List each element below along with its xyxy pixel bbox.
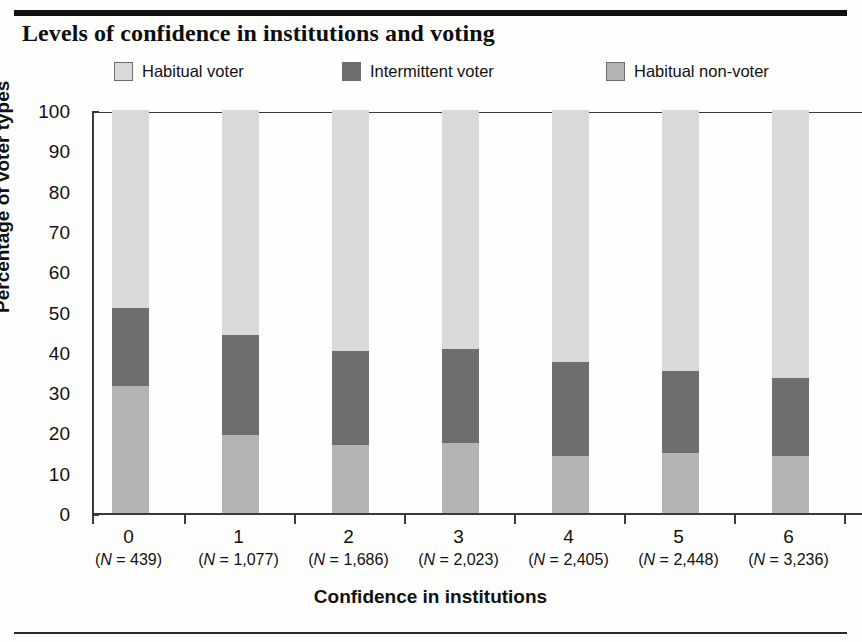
bar-column-3[interactable] <box>442 113 479 513</box>
x-axis-tick-marks <box>92 515 862 525</box>
intermittent-voter-swatch-icon <box>342 62 361 81</box>
x-tick-mark-5 <box>624 515 626 524</box>
bar-segment-habitual-voter-1[interactable] <box>222 110 259 335</box>
y-tick-label-70: 70 <box>16 222 70 244</box>
legend-item-habitual-non-voter[interactable]: Habitual non-voter <box>606 62 769 81</box>
x-label-group-4: 4(N = 2,405) <box>514 525 624 571</box>
x-axis-tick-labels: 0(N = 439)1(N = 1,077)2(N = 1,686)3(N = … <box>92 525 862 575</box>
y-tick-label-60: 60 <box>16 262 70 284</box>
bar-segment-habitual-voter-6[interactable] <box>772 110 809 378</box>
bar-segment-habitual-non-voter-0[interactable] <box>112 386 149 513</box>
bars-layer <box>94 113 862 513</box>
legend-label-intermittent-voter: Intermittent voter <box>370 62 494 81</box>
bar-segment-habitual-voter-4[interactable] <box>552 110 589 362</box>
bar-segment-habitual-voter-3[interactable] <box>442 110 479 349</box>
bar-column-5[interactable] <box>662 113 699 513</box>
bar-segment-intermittent-voter-1[interactable] <box>222 335 259 435</box>
y-tick-label-20: 20 <box>16 423 70 445</box>
bar-segment-intermittent-voter-4[interactable] <box>552 362 589 455</box>
bar-segment-intermittent-voter-3[interactable] <box>442 349 479 443</box>
bar-column-2[interactable] <box>332 113 369 513</box>
x-tick-mark-0 <box>92 515 94 524</box>
bar-column-1[interactable] <box>222 113 259 513</box>
legend-item-habitual-voter[interactable]: Habitual voter <box>114 62 244 81</box>
x-tick-mark-4 <box>514 515 516 524</box>
y-tick-label-50: 50 <box>16 303 70 325</box>
legend-item-intermittent-voter[interactable]: Intermittent voter <box>342 62 494 81</box>
y-tick-label-0: 0 <box>16 504 70 526</box>
x-sample-size-label-3: (N = 2,023) <box>404 549 514 571</box>
x-tick-mark-6 <box>734 515 736 524</box>
bar-column-4[interactable] <box>552 113 589 513</box>
bar-column-6[interactable] <box>772 113 809 513</box>
y-tick-label-40: 40 <box>16 343 70 365</box>
y-axis-tick-labels: 0102030405060708090100 <box>12 112 70 515</box>
bar-segment-habitual-voter-0[interactable] <box>112 110 149 308</box>
bar-segment-intermittent-voter-0[interactable] <box>112 308 149 386</box>
bar-segment-habitual-non-voter-6[interactable] <box>772 456 809 513</box>
x-sample-size-label-2: (N = 1,686) <box>294 549 404 571</box>
x-sample-size-label-6: (N = 3,236) <box>734 549 844 571</box>
x-sample-size-label-0: (N = 439) <box>74 549 184 571</box>
bar-segment-intermittent-voter-5[interactable] <box>662 371 699 453</box>
y-tick-label-10: 10 <box>16 464 70 486</box>
bar-segment-habitual-non-voter-3[interactable] <box>442 443 479 513</box>
page-title: Levels of confidence in institutions and… <box>22 20 495 47</box>
y-tick-label-80: 80 <box>16 182 70 204</box>
chart-legend: Habitual voter Intermittent voter Habitu… <box>92 62 792 88</box>
habitual-voter-swatch-icon <box>114 62 133 81</box>
bar-segment-intermittent-voter-6[interactable] <box>772 378 809 456</box>
habitual-non-voter-swatch-icon <box>606 62 625 81</box>
figure-caption-sliver <box>18 0 218 9</box>
bar-segment-habitual-voter-5[interactable] <box>662 110 699 371</box>
bar-segment-habitual-non-voter-1[interactable] <box>222 435 259 513</box>
x-tick-mark-7 <box>844 515 846 524</box>
top-rule <box>14 10 847 16</box>
plot-area <box>92 112 862 515</box>
bar-segment-intermittent-voter-2[interactable] <box>332 351 369 444</box>
x-category-label-1: 1 <box>184 525 294 549</box>
x-sample-size-label-5: (N = 2,448) <box>624 549 734 571</box>
bottom-rule <box>14 632 847 634</box>
x-category-label-0: 0 <box>74 525 184 549</box>
x-category-label-4: 4 <box>514 525 624 549</box>
y-tick-label-30: 30 <box>16 383 70 405</box>
y-tick-label-100: 100 <box>16 101 70 123</box>
x-axis-title: Confidence in institutions <box>0 586 861 608</box>
x-tick-mark-2 <box>294 515 296 524</box>
bar-segment-habitual-non-voter-2[interactable] <box>332 445 369 514</box>
legend-label-habitual-voter: Habitual voter <box>142 62 244 81</box>
bar-segment-habitual-non-voter-4[interactable] <box>552 456 589 513</box>
x-label-group-2: 2(N = 1,686) <box>294 525 404 571</box>
bar-segment-habitual-voter-2[interactable] <box>332 110 369 351</box>
x-tick-mark-1 <box>184 515 186 524</box>
x-sample-size-label-4: (N = 2,405) <box>514 549 624 571</box>
x-category-label-6: 6 <box>734 525 844 549</box>
bar-segment-habitual-non-voter-5[interactable] <box>662 453 699 513</box>
y-tick-label-90: 90 <box>16 141 70 163</box>
bar-column-0[interactable] <box>112 113 149 513</box>
x-label-group-6: 6(N = 3,236) <box>734 525 844 571</box>
x-label-group-3: 3(N = 2,023) <box>404 525 514 571</box>
x-tick-mark-3 <box>404 515 406 524</box>
x-label-group-5: 5(N = 2,448) <box>624 525 734 571</box>
x-category-label-2: 2 <box>294 525 404 549</box>
legend-label-habitual-non-voter: Habitual non-voter <box>634 62 769 81</box>
x-sample-size-label-1: (N = 1,077) <box>184 549 294 571</box>
x-category-label-5: 5 <box>624 525 734 549</box>
x-label-group-0: 0(N = 439) <box>74 525 184 571</box>
x-label-group-1: 1(N = 1,077) <box>184 525 294 571</box>
x-category-label-3: 3 <box>404 525 514 549</box>
